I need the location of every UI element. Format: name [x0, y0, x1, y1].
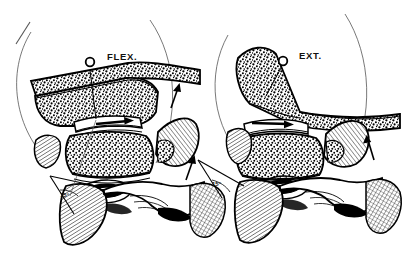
lamina-spinous-left: [60, 182, 226, 245]
lamina-spinous-right: [235, 178, 402, 243]
flexion-label: FLEX.: [107, 51, 137, 62]
right-panel-extension: [198, 14, 401, 243]
axis-of-rotation-marker-right-icon: [279, 57, 288, 66]
extension-label: EXT.: [299, 50, 322, 61]
angle-label-right: 15°: [212, 181, 221, 187]
anatomical-figure: FLEX. EXT. 15° 15°: [0, 0, 408, 266]
uncinate-process-left: [34, 135, 60, 168]
angle-label-left: 15°: [60, 192, 69, 198]
tick-mark-icon: [16, 22, 30, 44]
lower-vertebral-body-left: [66, 132, 154, 183]
axis-of-rotation-marker-left-icon: [86, 58, 95, 67]
illustration-canvas: [0, 0, 408, 266]
